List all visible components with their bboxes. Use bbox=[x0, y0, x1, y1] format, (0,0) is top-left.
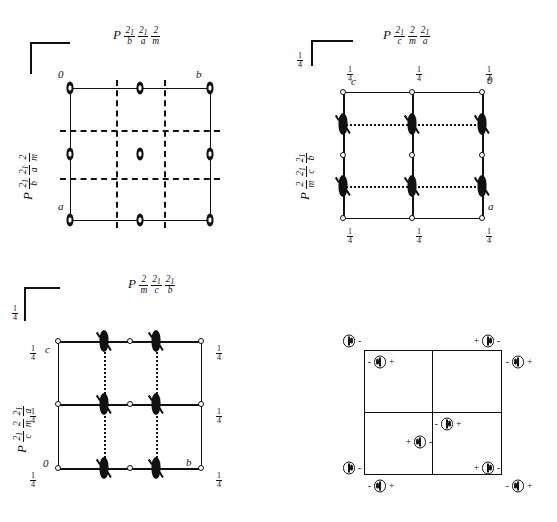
gp-sign-post: + bbox=[527, 481, 532, 491]
gp-sign-post: + bbox=[456, 419, 461, 429]
panel-2-title: P21c2m21a bbox=[383, 26, 432, 47]
panel-1-label-b: b bbox=[196, 68, 202, 80]
two-fold-axis bbox=[67, 148, 74, 161]
panel-3-unit-cell: 14 14 14 14 14 14 c 0 b bbox=[58, 341, 202, 469]
inversion-centre bbox=[479, 152, 485, 158]
gp-sign-post: - bbox=[497, 463, 500, 473]
in-plane-axis-arrow-down bbox=[159, 228, 168, 248]
gp-sign-pre: - bbox=[368, 357, 371, 367]
inversion-centre bbox=[340, 215, 346, 221]
mirror-trace-vertical-1 bbox=[116, 80, 118, 228]
in-plane-axis-arrow-left bbox=[32, 125, 54, 134]
general-position-site: - bbox=[340, 334, 358, 349]
gp-circle-icon bbox=[374, 356, 387, 369]
gp-sign-pre: - bbox=[435, 419, 438, 429]
gp-sign-pre: - bbox=[506, 481, 509, 491]
panel-4-general-position-diagram: - - + + - - + - + + - - - + + - bbox=[340, 320, 557, 522]
two-fold-axis bbox=[67, 82, 74, 95]
gp-sign-post: - bbox=[429, 437, 432, 447]
panel-2-label-origin: 0 bbox=[487, 74, 493, 86]
panel-3-term-1: 2m bbox=[139, 275, 148, 295]
two-one-screw-axis bbox=[477, 113, 488, 135]
two-one-screw-axis bbox=[477, 175, 488, 197]
in-plane-axis-arrow-right bbox=[495, 88, 517, 97]
gp-circle-icon bbox=[512, 356, 525, 369]
two-fold-axis bbox=[207, 82, 214, 95]
in-plane-axis-arrow-right bbox=[212, 463, 234, 472]
in-plane-axis-arrow-left bbox=[309, 151, 331, 160]
two-one-screw-axis bbox=[407, 175, 418, 197]
quarter-label: 14 bbox=[416, 66, 422, 83]
quarter-label: 14 bbox=[216, 408, 222, 425]
quarter-label: 14 bbox=[486, 228, 492, 245]
two-one-screw-axis bbox=[338, 113, 349, 135]
panel-1-symmetry-diagram: P21b21a2m P21b21a2m bbox=[0, 0, 280, 262]
quarter-label: 14 bbox=[416, 228, 422, 245]
in-plane-axis-arrow-up bbox=[152, 313, 161, 335]
panel-1-term-3: 2m bbox=[151, 26, 160, 46]
two-one-screw-axis bbox=[338, 175, 349, 197]
gp-sign-pre: - bbox=[368, 481, 371, 491]
mirror-trace-horizontal-1 bbox=[60, 130, 220, 132]
quarter-label: 14 bbox=[216, 472, 222, 489]
in-plane-axis-arrow-up bbox=[159, 60, 168, 80]
in-plane-axis-arrow-right bbox=[226, 125, 248, 134]
inversion-centre bbox=[55, 338, 61, 344]
general-position-site: + - bbox=[411, 435, 429, 450]
inversion-centre bbox=[479, 89, 485, 95]
two-fold-axis bbox=[137, 214, 144, 227]
cell-midline-horizontal bbox=[364, 412, 502, 413]
two-one-screw-axis bbox=[151, 393, 162, 415]
general-position-site: - + bbox=[438, 417, 456, 432]
gp-circle-icon bbox=[482, 462, 495, 475]
in-plane-axis-arrow-right bbox=[495, 214, 517, 223]
panel-3-label-origin: 0 bbox=[43, 457, 49, 469]
gp-circle-icon bbox=[512, 480, 525, 493]
general-position-site: + - bbox=[479, 334, 497, 349]
panel-2-term-1: 21c bbox=[394, 26, 404, 47]
in-plane-axis-arrow-down bbox=[111, 228, 120, 248]
in-plane-axis-arrow-down bbox=[152, 475, 161, 497]
in-plane-axis-arrow-right bbox=[212, 399, 234, 408]
general-position-site: - + bbox=[509, 479, 527, 494]
panel-3-title: P2m21c21b bbox=[128, 275, 177, 296]
gp-sign-pre: + bbox=[474, 336, 479, 346]
general-position-site: - + bbox=[509, 355, 527, 370]
panel-2-term-2: 2m bbox=[408, 26, 417, 46]
general-position-site: - + bbox=[371, 355, 389, 370]
gp-circle-icon bbox=[343, 462, 356, 475]
mirror-trace-horizontal-2 bbox=[60, 178, 220, 180]
inversion-centre bbox=[198, 338, 204, 344]
in-plane-axis-arrow-right bbox=[226, 173, 248, 182]
panel-1-unit-cell: 0 b a bbox=[70, 88, 210, 220]
inversion-centre bbox=[127, 401, 133, 407]
inversion-centre bbox=[409, 89, 415, 95]
gp-circle-icon bbox=[482, 335, 495, 348]
axis-key-quarter-label: 14 bbox=[12, 305, 18, 322]
inversion-centre bbox=[409, 152, 415, 158]
two-fold-axis bbox=[137, 148, 144, 161]
panel-2-label-c: c bbox=[351, 75, 356, 87]
general-position-site: + - bbox=[479, 461, 497, 476]
gp-circle-icon bbox=[414, 436, 427, 449]
gp-sign-post: - bbox=[358, 336, 361, 346]
in-plane-axis-arrow-down bbox=[100, 475, 109, 497]
panel-1-label-origin: 0 bbox=[58, 68, 64, 80]
in-plane-axis-arrow-left bbox=[26, 399, 48, 408]
panel-3-axis-key: 14 bbox=[24, 287, 72, 321]
gp-sign-post: + bbox=[527, 357, 532, 367]
panel-1-term-2: 21a bbox=[138, 26, 148, 47]
panel-2-symmetry-diagram: P21c2m21a P2m21c21b 14 bbox=[283, 0, 557, 262]
panel-3-label-b: b bbox=[186, 456, 192, 468]
two-fold-axis bbox=[67, 214, 74, 227]
gp-sign-pre: + bbox=[406, 437, 411, 447]
gp-circle-icon bbox=[441, 418, 454, 431]
gp-sign-post: - bbox=[497, 336, 500, 346]
axis-key-quarter-label: 14 bbox=[297, 52, 303, 69]
panel-2-unit-cell: 14 14 14 14 14 14 c 0 a bbox=[343, 92, 483, 218]
panel-1-title: P21b21a2m bbox=[113, 26, 162, 47]
two-one-screw-axis bbox=[99, 393, 110, 415]
in-plane-axis-arrow-left bbox=[309, 214, 331, 223]
general-position-site: - + bbox=[371, 479, 389, 494]
inversion-centre bbox=[340, 89, 346, 95]
